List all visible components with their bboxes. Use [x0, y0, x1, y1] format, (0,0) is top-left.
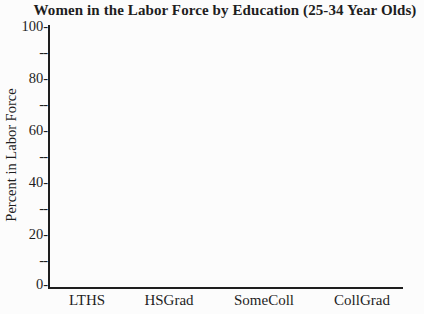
y-minor-tick-10: --	[0, 253, 48, 268]
x-category-label-somecoll: SomeColl	[234, 292, 294, 309]
y-tick-label-80: 80-	[0, 71, 48, 86]
y-tick-label-100: 100-	[0, 19, 48, 34]
chart-figure: Women in the Labor Force by Education (2…	[0, 0, 424, 314]
y-tick-label-0: 0-	[0, 277, 48, 292]
y-minor-tick-70: --	[0, 97, 48, 112]
y-minor-tick-50: --	[0, 149, 48, 164]
y-tick-label-40: 40-	[0, 175, 48, 190]
chart-title: Women in the Labor Force by Education (2…	[26, 2, 424, 19]
x-axis-line	[48, 287, 403, 289]
x-category-label-lths: LTHS	[69, 292, 105, 309]
y-minor-tick-90: --	[0, 45, 48, 60]
x-category-label-collgrad: CollGrad	[334, 292, 390, 309]
y-minor-tick-30: --	[0, 201, 48, 216]
x-category-label-hsgrad: HSGrad	[144, 292, 193, 309]
y-tick-label-60: 60-	[0, 123, 48, 138]
y-axis-line	[48, 25, 50, 287]
y-tick-label-20: 20-	[0, 227, 48, 242]
